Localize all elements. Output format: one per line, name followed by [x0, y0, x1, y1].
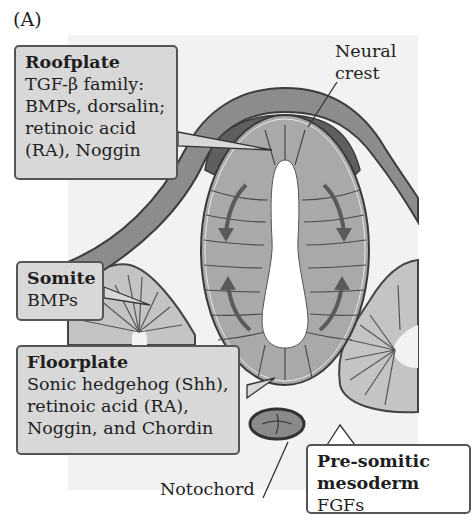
floorplate-heading: Floorplate: [27, 352, 128, 372]
somite-line-1: BMPs: [27, 289, 93, 311]
roofplate-heading: Roofplate: [25, 52, 120, 72]
presomitic-pointer: [327, 425, 355, 445]
somite-callout: Somite BMPs: [16, 261, 104, 321]
roofplate-callout: Roofplate TGF-β family: BMPs, dorsalin; …: [14, 45, 178, 180]
presomitic-signal: FGFs: [317, 495, 364, 515]
notochord-label: Notochord: [160, 478, 255, 500]
neural-crest-label: Neural crest: [335, 40, 396, 84]
neural-crest-label-line-1: Neural: [335, 40, 396, 62]
floorplate-pointer: [247, 378, 275, 398]
floorplate-callout: Floorplate Sonic hedgehog (Shh), retinoi…: [16, 345, 240, 455]
presomitic-heading-line-1: Pre-somitic: [317, 451, 430, 471]
notochord: [250, 409, 304, 439]
somite-heading: Somite: [27, 268, 96, 288]
floorplate-line-2: retinoic acid (RA),: [27, 395, 229, 417]
notochord-leader: [263, 442, 288, 498]
roofplate-line-4: (RA), Noggin: [25, 139, 167, 161]
neural-crest-label-line-2: crest: [335, 62, 396, 84]
presomitic-heading-line-2: mesoderm: [317, 473, 419, 493]
roofplate-line-2: BMPs, dorsalin;: [25, 95, 167, 117]
floorplate-line-1: Sonic hedgehog (Shh),: [27, 373, 229, 395]
floorplate-line-3: Noggin, and Chordin: [27, 417, 229, 439]
presomitic-mesoderm-callout: Pre-somitic mesoderm FGFs: [306, 444, 471, 514]
roofplate-line-3: retinoic acid: [25, 117, 167, 139]
roofplate-line-1: TGF-β family:: [25, 73, 167, 95]
